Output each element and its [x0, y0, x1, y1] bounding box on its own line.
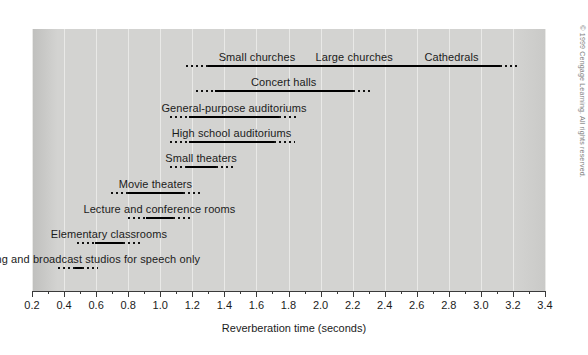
tick-major: [417, 291, 418, 297]
bar-row: Concert halls: [32, 72, 545, 94]
tick-minor: [337, 291, 338, 294]
tick-minor: [369, 291, 370, 294]
bar-label: Small theaters: [165, 152, 237, 164]
figure-container: Small churchesLarge churchesCathedralsCo…: [0, 0, 588, 355]
tick-major: [128, 291, 129, 297]
bar-dotted-left: [186, 65, 208, 67]
bar-row: Small churchesLarge churchesCathedrals: [32, 47, 545, 69]
bar-solid-span: [186, 166, 216, 168]
tick-minor: [305, 291, 306, 294]
tick-major: [449, 291, 450, 297]
tick-label: 0.6: [88, 299, 103, 311]
bar-dotted-right: [353, 90, 371, 92]
bar-label: Lecture and conference rooms: [83, 203, 235, 215]
tick-major: [160, 291, 161, 297]
bar-row: Recording and broadcast studios for spee…: [32, 249, 545, 271]
bar-row: Small theaters: [32, 148, 545, 170]
tick-major: [513, 291, 514, 297]
tick-minor: [80, 291, 81, 294]
bar-dotted-right: [274, 141, 295, 143]
bar-label: Movie theaters: [119, 178, 193, 190]
bar-dotted-left: [58, 267, 76, 269]
bar-solid-span: [95, 242, 124, 244]
bar-dotted-right: [183, 192, 201, 194]
tick-label: 0.2: [24, 299, 39, 311]
bar-dotted-left: [111, 192, 129, 194]
bar-label: Concert halls: [251, 76, 317, 88]
bar-row: High school auditoriums: [32, 123, 545, 145]
tick-label: 3.0: [473, 299, 488, 311]
tick-label: 2.2: [345, 299, 360, 311]
tick-label: 3.2: [505, 299, 520, 311]
tick-major: [96, 291, 97, 297]
tick-minor: [401, 291, 402, 294]
bar-label: Cathedrals: [424, 51, 478, 63]
tick-label: 1.8: [281, 299, 296, 311]
bar-row: Movie theaters: [32, 174, 545, 196]
tick-label: 3.4: [537, 299, 552, 311]
plot-panel: Small churchesLarge churchesCathedralsCo…: [32, 29, 545, 291]
bar-row: General-purpose auditoriums: [32, 98, 545, 120]
bar-dotted-right: [82, 267, 98, 269]
tick-minor: [176, 291, 177, 294]
bar-solid-span: [189, 141, 274, 143]
tick-minor: [465, 291, 466, 294]
bar-dotted-right: [123, 242, 142, 244]
tick-minor: [272, 291, 273, 294]
tick-major: [64, 291, 65, 297]
tick-label: 1.4: [217, 299, 232, 311]
bar-label: Large churches: [316, 51, 393, 63]
tick-label: 2.0: [313, 299, 328, 311]
bar-dotted-right: [173, 217, 191, 219]
bar-dotted-right: [279, 116, 298, 118]
bar-solid-span: [146, 217, 173, 219]
tick-label: 2.8: [441, 299, 456, 311]
tick-minor: [433, 291, 434, 294]
bar-dotted-right: [500, 65, 519, 67]
tick-major: [353, 291, 354, 297]
bar-solid-span: [208, 65, 500, 67]
tick-label: 1.2: [185, 299, 200, 311]
gridline: [545, 29, 546, 291]
tick-major: [224, 291, 225, 297]
tick-minor: [497, 291, 498, 294]
bar-dotted-left: [170, 141, 189, 143]
bar-label: Recording and broadcast studios for spee…: [0, 253, 200, 265]
bar-row: Elementary classrooms: [32, 224, 545, 246]
x-axis-title: Reverberation time (seconds): [0, 322, 588, 334]
bar-dotted-left: [170, 166, 186, 168]
tick-label: 0.4: [56, 299, 71, 311]
tick-major: [385, 291, 386, 297]
tick-minor: [112, 291, 113, 294]
bar-label: Elementary classrooms: [51, 228, 167, 240]
tick-label: 1.6: [249, 299, 264, 311]
bar-solid-span: [189, 116, 279, 118]
tick-label: 2.4: [377, 299, 392, 311]
bar-dotted-left: [196, 90, 215, 92]
tick-minor: [48, 291, 49, 294]
tick-major: [321, 291, 322, 297]
bar-label: General-purpose auditoriums: [161, 102, 306, 114]
copyright-notice: © 1999 Cengage Learning. All rights rese…: [579, 25, 586, 178]
bar-dotted-left: [170, 116, 189, 118]
bar-solid-span: [128, 192, 183, 194]
tick-label: 2.6: [409, 299, 424, 311]
tick-major: [192, 291, 193, 297]
bar-dotted-right: [216, 166, 234, 168]
bar-dotted-left: [128, 217, 146, 219]
tick-major: [32, 291, 33, 297]
bar-row: Lecture and conference rooms: [32, 199, 545, 221]
tick-major: [289, 291, 290, 297]
bar-solid-span: [215, 90, 353, 92]
bar-label: High school auditoriums: [172, 127, 292, 139]
tick-major: [545, 291, 546, 297]
tick-major: [256, 291, 257, 297]
bar-dotted-left: [77, 242, 95, 244]
tick-minor: [240, 291, 241, 294]
tick-label: 0.8: [121, 299, 136, 311]
tick-major: [481, 291, 482, 297]
tick-minor: [144, 291, 145, 294]
tick-minor: [529, 291, 530, 294]
tick-label: 1.0: [153, 299, 168, 311]
bar-label: Small churches: [219, 51, 296, 63]
